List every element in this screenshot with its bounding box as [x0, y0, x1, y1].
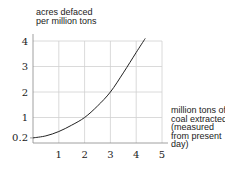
y-tick-labels: 0.21234: [12, 36, 28, 144]
x-tick-labels: 12345: [56, 149, 166, 160]
x-tick-label: 1: [56, 149, 62, 160]
x-tick-label: 4: [133, 149, 139, 160]
x-axis-label-line: day): [171, 140, 225, 149]
y-tick-label: 3: [22, 61, 28, 72]
axes: [33, 34, 168, 143]
grid-lines: [30, 41, 162, 143]
y-tick-label: 2: [22, 87, 28, 98]
data-curve: [33, 38, 145, 137]
x-tick-label: 5: [159, 149, 165, 160]
x-tick-label: 3: [107, 149, 113, 160]
y-tick-label: 0.2: [12, 132, 28, 143]
y-tick-label: 1: [22, 112, 28, 123]
y-tick-label: 4: [22, 36, 28, 47]
y-axis-label-line: per million tons: [36, 17, 97, 26]
x-tick-label: 2: [81, 149, 87, 160]
x-axis-label: million tons of coal extracted (measured…: [171, 106, 225, 149]
y-axis-label: acres defaced per million tons: [36, 8, 97, 26]
